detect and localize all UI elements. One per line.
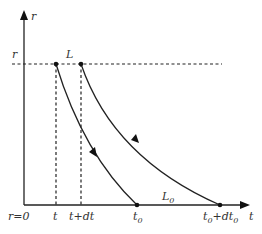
x-axis-label: t <box>249 210 254 223</box>
x-axis-arrow-icon <box>240 201 250 209</box>
y-axis-arrow-icon <box>20 10 28 20</box>
worldline-curve-1 <box>56 64 137 205</box>
line-L0-sub: 0 <box>169 196 174 205</box>
point-t-plus-dt <box>79 62 84 67</box>
line-L-label: L <box>65 48 73 61</box>
worldline-curve-2 <box>81 64 220 205</box>
point-t0-plus-dt0 <box>218 203 223 208</box>
curve-2-arrow-icon <box>131 134 139 143</box>
diagram-canvas: r r L L0 r=0 t t+dt t0 t0+dt0 t <box>0 0 262 234</box>
tick-t0-label: t0 <box>133 210 143 225</box>
tick-t0-plus-dt0-label: t0+dt0 <box>203 210 238 225</box>
r-level-label: r <box>12 48 18 61</box>
tick-t0dt0-mid: +dt <box>213 210 234 223</box>
origin-label: r=0 <box>8 210 29 223</box>
line-L0-label: L0 <box>161 190 174 205</box>
y-axis-label: r <box>31 10 37 23</box>
point-t <box>54 62 59 67</box>
tick-t-label: t <box>53 210 58 223</box>
tick-t-plus-dt-label: t+dt <box>69 210 95 223</box>
tick-t0-sub: 0 <box>137 216 142 225</box>
point-t0 <box>135 203 140 208</box>
tick-t0dt0-sub2: 0 <box>233 216 238 225</box>
line-L0-main: L <box>161 190 169 203</box>
